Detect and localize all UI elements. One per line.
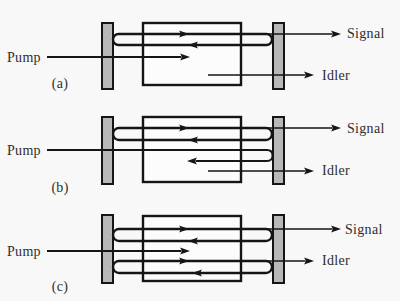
pump-label-c: Pump [7, 244, 41, 259]
crystal-c [143, 216, 241, 281]
panel-label-a: (a) [52, 76, 68, 92]
idler-label-b: Idler [322, 163, 350, 178]
panel-label-c: (c) [52, 279, 68, 295]
panel-a: Pump Signal Idler (a) [7, 23, 385, 92]
idler-output-arrowhead-b [304, 168, 314, 175]
idler-output-arrowhead-c [304, 258, 314, 265]
panel-c: Pump Signal Idler (c) [7, 215, 383, 295]
opo-configurations-diagram: Pump Signal Idler (a) Pump Signal Idler … [0, 0, 400, 301]
input-mirror-c [102, 215, 113, 283]
signal-label-b: Signal [347, 121, 385, 136]
idler-label-c: Idler [322, 253, 350, 268]
input-mirror-a [102, 23, 113, 89]
panel-b: Pump Signal Idler (b) [7, 117, 385, 196]
signal-label-c: Signal [345, 222, 383, 237]
output-mirror-b [273, 117, 284, 184]
signal-output-arrowhead-b [331, 125, 341, 132]
output-mirror-c [273, 215, 284, 283]
output-mirror-a [273, 23, 284, 89]
panel-label-b: (b) [51, 180, 68, 196]
signal-output-arrowhead-c [331, 226, 341, 233]
pump-label-b: Pump [7, 143, 41, 158]
idler-output-arrowhead-a [304, 72, 314, 79]
signal-output-arrowhead-a [331, 31, 341, 38]
pump-label-a: Pump [7, 50, 41, 65]
idler-label-a: Idler [322, 68, 350, 83]
signal-label-a: Signal [347, 26, 385, 41]
